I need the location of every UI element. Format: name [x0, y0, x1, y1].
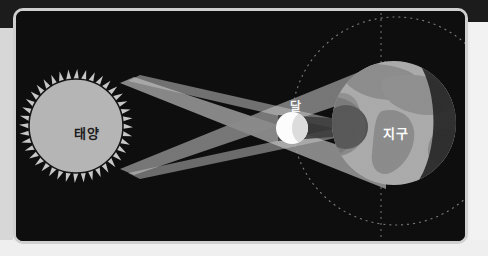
- eclipse-illustration: [16, 11, 465, 241]
- outer-background-right: [470, 22, 488, 256]
- diagram-stage: 태양 달 지구: [0, 0, 488, 256]
- sun-disk: [29, 79, 123, 173]
- outer-background-left-light: [0, 28, 13, 256]
- diagram-frame: 태양 달 지구: [13, 8, 468, 244]
- space-background: 태양 달 지구: [16, 11, 465, 241]
